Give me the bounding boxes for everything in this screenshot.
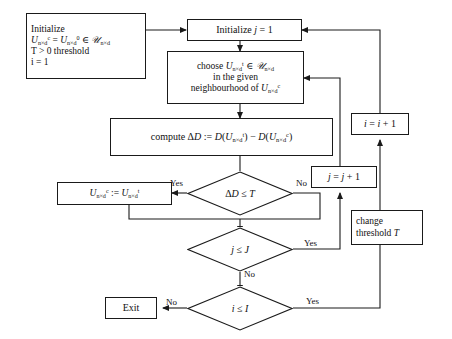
edge-label-dd-no: No [296, 178, 307, 188]
initialize-line-2: Un×dc = Un×d0 ∈ 𝒰n×d [31, 35, 110, 46]
change-threshold-line-1: change [356, 216, 383, 227]
node-choose-u: choose Un×dt ∈ 𝒰n×d in the given neighbo… [167, 51, 304, 104]
node-initialize-j: Initialize j = 1 [187, 19, 302, 41]
flowchart-canvas: Initialize Un×dc = Un×d0 ∈ 𝒰n×d T > 0 th… [0, 0, 452, 339]
decision-i-label: i ≤ I [187, 286, 293, 331]
node-increment-j: j = j + 1 [311, 166, 377, 188]
initialize-line-3: T > 0 threshold [31, 46, 89, 57]
initialize-line-1: Initialize [31, 24, 65, 35]
change-threshold-line-2: threshold T [356, 228, 399, 239]
edge-label-dd-yes: Yes [170, 178, 183, 188]
assign-uc-label: Un×dc := Un×dt [90, 188, 140, 199]
decision-dd-label: ΔD ≤ T [187, 171, 293, 216]
exit-label: Exit [123, 302, 140, 314]
initialize-line-4: i = 1 [31, 57, 49, 68]
decision-j-label: j ≤ J [187, 227, 293, 272]
node-compute-dd: compute ΔD := D(Un×dt) − D(Un×dc) [110, 118, 333, 156]
node-decision-j: j ≤ J [187, 227, 293, 272]
increment-i-label: i = i + 1 [364, 118, 396, 130]
node-exit: Exit [105, 297, 157, 319]
node-change-threshold: change threshold T [351, 210, 423, 245]
edge-label-i-no: No [166, 297, 177, 307]
edge-label-j-yes: Yes [304, 238, 317, 248]
choose-line-2: in the given [213, 72, 258, 83]
increment-j-label: j = j + 1 [328, 171, 360, 183]
edge-label-j-no: No [244, 269, 255, 279]
wire-inci-to-initj [302, 30, 380, 113]
node-decision-i: i ≤ I [187, 286, 293, 331]
node-increment-i: i = i + 1 [351, 113, 409, 135]
initialize-j-label: Initialize j = 1 [216, 24, 272, 36]
node-assign-uc: Un×dc := Un×dt [57, 182, 172, 205]
compute-dd-label: compute ΔD := D(Un×dt) − D(Un×dc) [151, 131, 293, 143]
choose-line-3: neighbourhood of Un×dc [191, 83, 280, 94]
edge-label-i-yes: Yes [306, 296, 319, 306]
choose-line-1: choose Un×dt ∈ 𝒰n×d [197, 61, 274, 72]
node-initialize-main: Initialize Un×dc = Un×d0 ∈ 𝒰n×d T > 0 th… [26, 13, 146, 79]
node-decision-dd: ΔD ≤ T [187, 171, 293, 216]
